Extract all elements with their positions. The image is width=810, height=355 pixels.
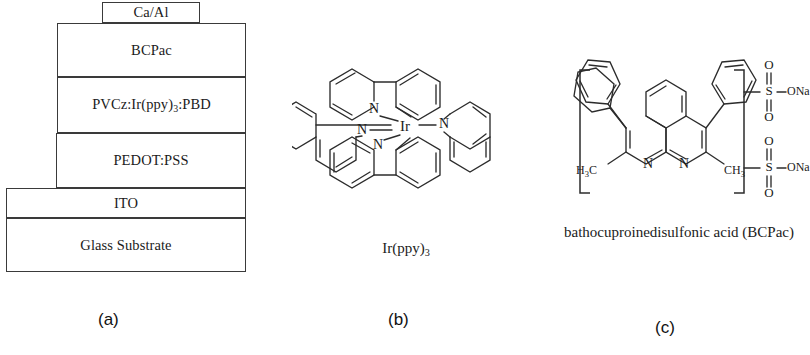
o-atom-upper-bottom: O (764, 109, 773, 124)
stack-layer-emissive: PVCz:Ir(ppy)3:PBD (57, 77, 246, 133)
caption-irppy3: Ir(ppy)3 (292, 240, 520, 258)
bond-core-to-left-methyl (608, 152, 626, 164)
o-atom-upper-top: O (764, 57, 773, 72)
n-atom-top-ligand: N (369, 101, 379, 116)
ona-label-lower: ONa (787, 160, 810, 174)
right-ligand-phenyl-ring (450, 137, 490, 172)
panel-c-bcpac-structure: N N (548, 40, 810, 220)
emissive-label-suffix: :PBD (178, 96, 211, 112)
sulfonate-group-upper: S O O ONa (744, 57, 810, 124)
n-atom-left-ligand: N (357, 122, 367, 137)
stack-layer-anode: ITO (6, 188, 246, 218)
o-atom-lower-top: O (764, 133, 773, 148)
bond-core-to-left-phenyl (608, 104, 626, 128)
stack-layer-cathode: Ca/Al (102, 2, 200, 23)
stack-layer-label-hole-injection: PEDOT:PSS (113, 153, 188, 168)
stack-layer-hole-injection: PEDOT:PSS (56, 133, 246, 188)
ir-atom-label: Ir (400, 118, 410, 134)
stack-layer-label-emissive: PVCz:Ir(ppy)3:PBD (92, 97, 211, 114)
right-phenyl-substituent-ring (712, 60, 756, 104)
bond-n-to-ir-bottom (384, 135, 400, 140)
panel-b-irppy3-structure: Ir N (292, 18, 520, 258)
left-phenyl-substituent-ring (574, 68, 626, 128)
n-atom-bottom-ligand: N (373, 137, 383, 152)
emissive-label-prefix: PVCz:Ir(ppy) (92, 96, 173, 112)
figure-canvas: Ca/Al BCPac PVCz:Ir(ppy)3:PBD PEDOT:PSS … (0, 0, 810, 355)
sulfonate-group-lower: S O O ONa (744, 133, 810, 200)
stack-layer-label-cathode: Ca/Al (133, 5, 168, 20)
s-atom-upper: S (765, 83, 772, 98)
methyl-right-subscript: 3 (741, 169, 745, 179)
top-ligand-phenyl-ring (396, 69, 440, 120)
bcpac-molecule-drawing: N N (548, 40, 810, 218)
caption-bcpac: bathocuproinedisulfonic acid (BCPac) (548, 224, 810, 241)
stack-layer-electron-transport: BCPac (57, 23, 246, 77)
methyl-left-label: H3C (576, 163, 597, 179)
panel-letter-a: (a) (98, 310, 119, 330)
stack-layer-label-electron-transport: BCPac (131, 43, 172, 58)
s-atom-lower: S (765, 159, 772, 174)
bond-n-to-ir-top (380, 116, 398, 121)
o-atom-lower-bottom: O (764, 185, 773, 200)
top-ligand-pyridine-ring (330, 69, 374, 120)
n-atom-right-core: N (679, 156, 689, 171)
panel-letter-b: (b) (388, 310, 409, 330)
phenanthroline-central-ring (646, 80, 686, 128)
panel-a-device-stack: Ca/Al BCPac PVCz:Ir(ppy)3:PBD PEDOT:PSS … (0, 0, 270, 285)
caption-irppy3-subscript: 3 (425, 247, 430, 258)
left-phenyl-ring-clean (576, 60, 620, 104)
n-atom-left-core: N (643, 156, 653, 171)
methyl-right-label: CH3 (724, 163, 745, 179)
bond-ring-to-n-right-b (444, 132, 450, 137)
irppy3-molecule-drawing: Ir N (292, 18, 520, 233)
panel-letter-c: (c) (655, 318, 675, 338)
ona-label-upper: ONa (787, 84, 810, 98)
bond-core-to-right-phenyl (706, 104, 724, 128)
caption-irppy3-prefix: Ir(ppy) (382, 240, 424, 256)
stack-layer-label-anode: ITO (114, 196, 138, 211)
bond-c-to-ir-top (396, 107, 411, 117)
stack-layer-label-substrate: Glass Substrate (80, 238, 171, 253)
methyl-left-c: C (589, 163, 597, 177)
methyl-left-h: H (576, 163, 585, 177)
bond-core-to-right-methyl (706, 152, 724, 164)
stack-layer-substrate: Glass Substrate (6, 218, 246, 272)
left-ligand-phenyl-ring (292, 102, 316, 149)
methyl-right-ch: CH (724, 163, 741, 177)
right-ligand-pyridine-ring (450, 102, 490, 149)
left-ligand-pyridine-ring (316, 137, 356, 172)
